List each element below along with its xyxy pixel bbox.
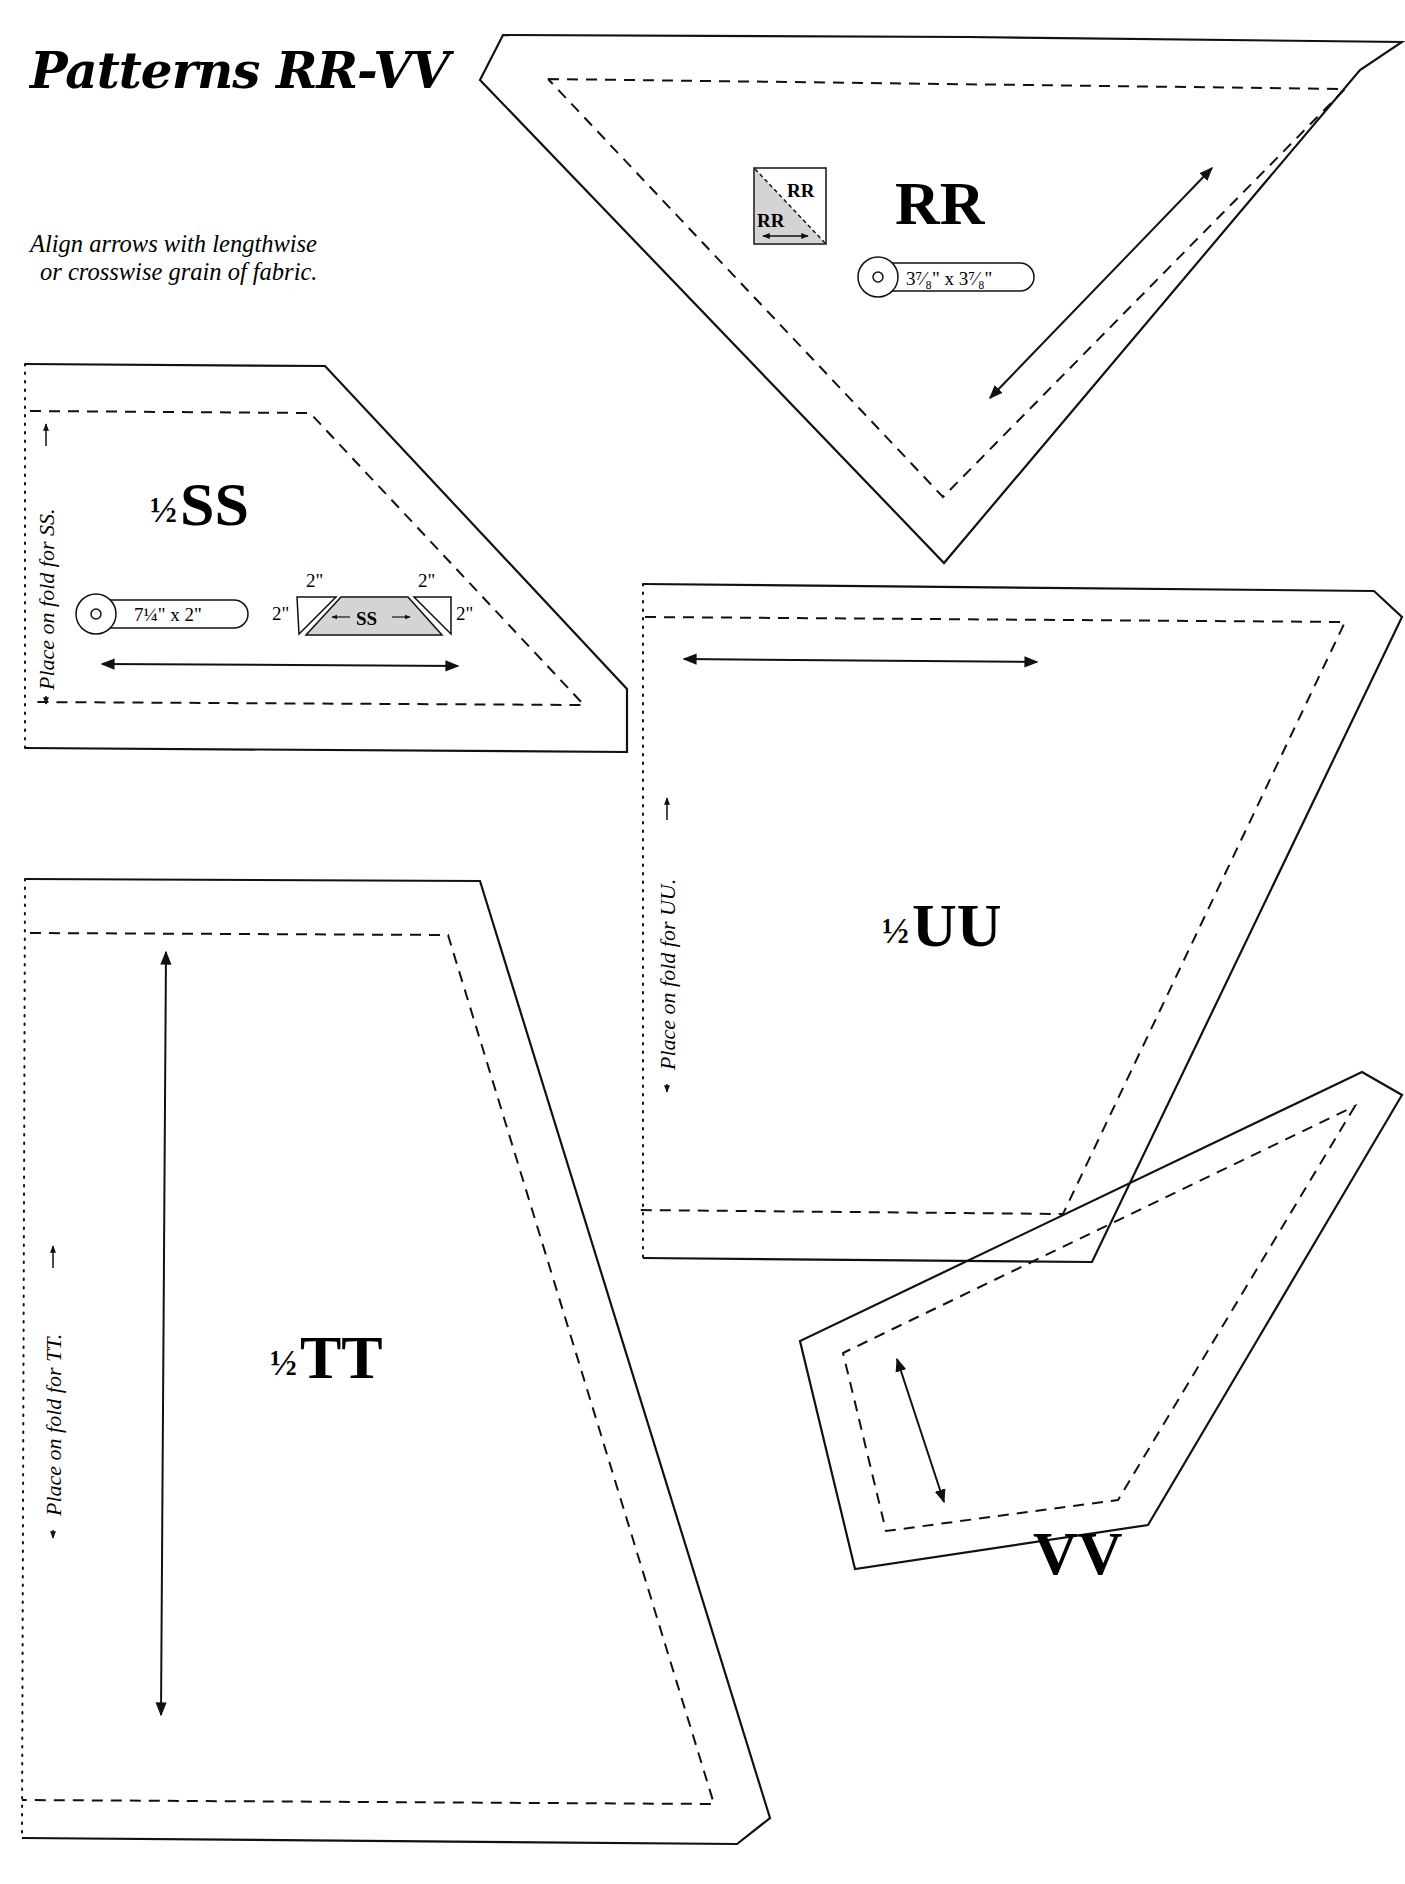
uu-fold-note: Place on fold for UU. — [655, 798, 680, 1092]
pattern-sheet: Patterns RR-VV Align arrows with lengthw… — [0, 0, 1405, 1884]
svg-text:Place on fold for UU.: Place on fold for UU. — [655, 879, 680, 1071]
svg-text:2": 2" — [272, 603, 289, 624]
uu-label: UU — [912, 891, 1002, 959]
instruction-line-1: Align arrows with lengthwise — [28, 230, 317, 257]
uu-grain-arrow — [684, 659, 1037, 662]
uu-cut-line — [643, 584, 1402, 1262]
ss-cut-line — [25, 364, 627, 752]
svg-text:Place on fold for SS.: Place on fold for SS. — [34, 509, 59, 691]
rr-diagram-label-bottom: RR — [757, 210, 785, 231]
ss-cut-size-badge: 7¼" x 2" — [76, 594, 248, 634]
rr-cut-size: 3⁷⁄₈" x 3⁷⁄₈" — [906, 268, 992, 289]
ss-fold-note: Place on fold for SS. — [34, 424, 59, 704]
uu-label-fraction: ½ — [882, 911, 909, 951]
svg-text:Place on fold for TT.: Place on fold for TT. — [41, 1334, 66, 1517]
tt-label-fraction: ½ — [270, 1343, 297, 1383]
ss-cutting-diagram: 2" 2" 2" 2" SS — [272, 570, 473, 635]
rr-diagram-label-top: RR — [787, 180, 815, 201]
pattern-rr: RR RR RR 3⁷⁄₈" x 3⁷⁄₈" — [480, 35, 1402, 563]
tt-grain-arrow — [161, 952, 166, 1715]
rr-cutting-diagram: RR RR — [754, 168, 826, 244]
vv-grain-arrow — [897, 1359, 944, 1502]
pattern-vv: VV — [800, 1072, 1402, 1587]
pattern-half-uu: Place on fold for UU. ½ UU — [638, 584, 1402, 1262]
vv-label: VV — [1033, 1519, 1123, 1587]
tt-fold-note: Place on fold for TT. — [41, 1246, 66, 1538]
page-title: Patterns RR-VV — [28, 41, 455, 100]
ss-grain-arrow — [102, 664, 458, 666]
svg-text:2": 2" — [418, 570, 435, 591]
svg-text:2": 2" — [456, 603, 473, 624]
vv-seam-line — [843, 1106, 1355, 1531]
svg-text:SS: SS — [356, 608, 377, 629]
ss-seam-line — [30, 411, 584, 705]
tt-label: TT — [300, 1323, 383, 1391]
rr-label: RR — [895, 169, 986, 237]
pattern-half-ss: Place on fold for SS. ½ SS 7¼" x 2" 2" 2… — [25, 364, 627, 752]
tt-fold-line — [22, 879, 25, 1838]
instruction-line-2: or crosswise grain of fabric. — [40, 258, 317, 285]
ss-label: SS — [180, 470, 249, 538]
ss-label-fraction: ½ — [150, 490, 177, 530]
ss-cut-size: 7¼" x 2" — [134, 604, 202, 625]
vv-cut-line — [800, 1072, 1402, 1569]
rr-cut-size-badge: 3⁷⁄₈" x 3⁷⁄₈" — [858, 257, 1034, 297]
svg-text:2": 2" — [306, 570, 323, 591]
rr-cut-line — [480, 35, 1402, 563]
